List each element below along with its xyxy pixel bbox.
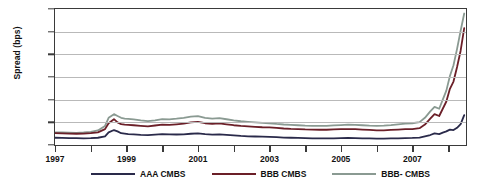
gridline [55, 32, 466, 33]
gridline [55, 100, 466, 101]
x-tick-label: 2001 [175, 154, 221, 164]
gridline [55, 54, 466, 55]
plot-area [54, 8, 467, 146]
legend-entry[interactable]: BBB CMBS [212, 169, 307, 179]
x-tick-mark [162, 146, 163, 152]
x-tick-mark [126, 146, 127, 152]
x-tick-mark [198, 146, 199, 152]
legend-label: AAA CMBS [140, 169, 186, 179]
gridline [55, 77, 466, 78]
y-axis-title: Spread (bps) [12, 8, 22, 98]
legend-line-swatch [91, 173, 135, 176]
x-tick-label: 1999 [103, 154, 149, 164]
legend-line-swatch [212, 173, 256, 176]
legend-entry[interactable]: AAA CMBS [91, 169, 186, 179]
x-tick-mark [234, 146, 235, 152]
legend-label: BBB CMBS [261, 169, 307, 179]
x-tick-mark [269, 146, 270, 152]
x-tick-label: 2007 [389, 154, 435, 164]
series-line-bbb-cmbs [55, 28, 464, 134]
chart-figure: Spread (bps) 0250500750100012501500 1997… [0, 0, 490, 182]
gridline [55, 122, 466, 123]
chart-legend: AAA CMBSBBB CMBSBBB- CMBS [54, 167, 467, 181]
x-tick-label: 1997 [32, 154, 78, 164]
x-tick-mark [377, 146, 378, 152]
x-tick-mark [55, 146, 56, 152]
x-tick-mark [412, 146, 413, 152]
x-tick-label: 2003 [246, 154, 292, 164]
x-tick-mark [341, 146, 342, 152]
x-tick-mark [91, 146, 92, 152]
x-tick-mark [448, 146, 449, 152]
legend-line-swatch [332, 173, 376, 176]
legend-label: BBB- CMBS [381, 169, 430, 179]
legend-entry[interactable]: BBB- CMBS [332, 169, 430, 179]
x-tick-mark [305, 146, 306, 152]
x-tick-label: 2005 [318, 154, 364, 164]
